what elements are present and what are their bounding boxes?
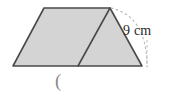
stray-paren-mark: ( (55, 71, 61, 91)
figure-canvas (0, 0, 172, 97)
dimension-label-9cm: 9 cm (123, 23, 151, 38)
geometry-figure: 9 cm ( (0, 0, 172, 97)
